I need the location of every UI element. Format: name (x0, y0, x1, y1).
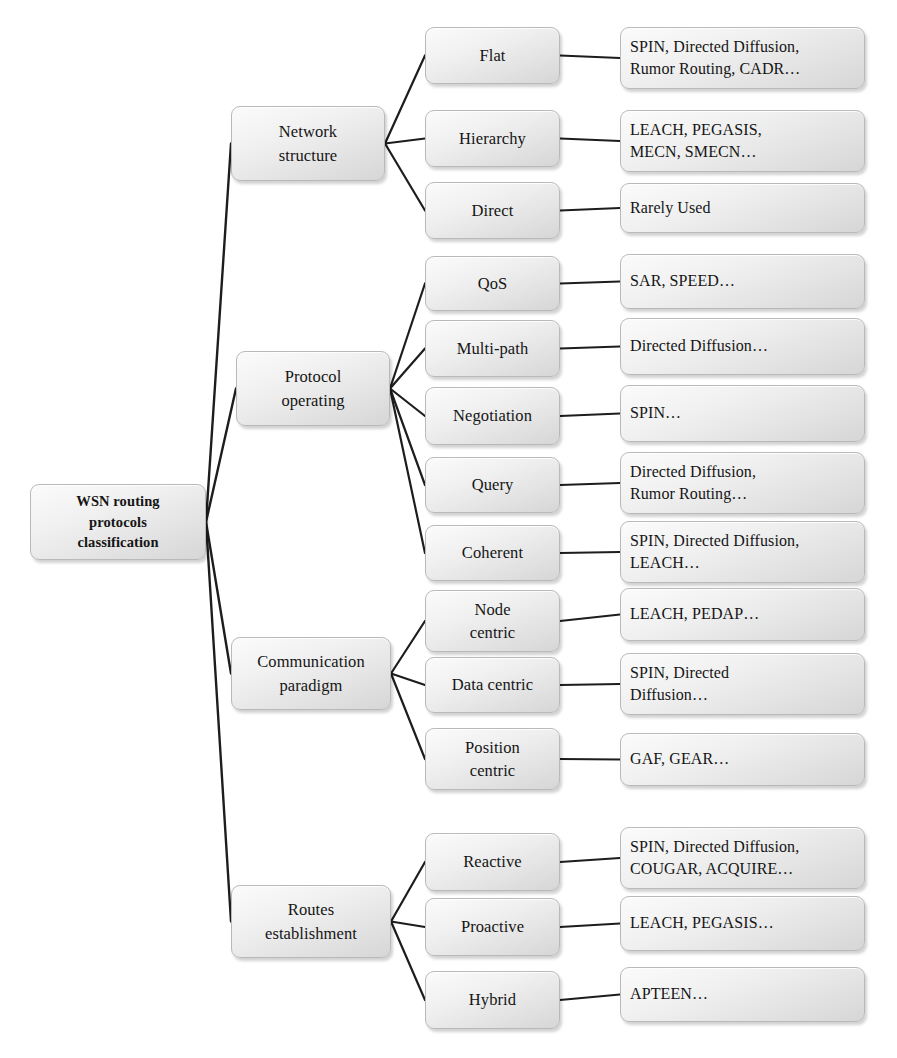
subcategory-node-direct: Direct (425, 182, 560, 239)
edge-protocol-operating-to-negotiation (390, 389, 425, 417)
edge-protocol-operating-to-coherent (390, 389, 425, 554)
edge-multi-path-to-protocols (560, 347, 620, 349)
subcategory-node-direct-label: Direct (426, 199, 559, 222)
subcategory-node-flat: Flat (425, 27, 560, 84)
diagram-canvas: WSN routingprotocolsclassificationNetwor… (0, 0, 897, 1058)
edge-direct-to-protocols (560, 208, 620, 211)
edge-routes-establishment-to-reactive (391, 862, 425, 922)
subcategory-node-coherent-label: Coherent (426, 541, 559, 564)
protocol-list-reactive: SPIN, Directed Diffusion,COUGAR, ACQUIRE… (620, 827, 865, 889)
edge-communication-paradigm-to-position-centric (391, 674, 425, 760)
protocol-list-hybrid-label: APTEEN… (630, 983, 855, 1005)
edge-node-centric-to-protocols (560, 615, 620, 622)
edge-hybrid-to-protocols (560, 995, 620, 1001)
edge-negotiation-to-protocols (560, 414, 620, 417)
subcategory-node-proactive: Proactive (425, 898, 560, 956)
subcategory-node-query-label: Query (426, 473, 559, 496)
subcategory-node-position-centric: Positioncentric (425, 728, 560, 790)
protocol-list-position-centric: GAF, GEAR… (620, 733, 865, 786)
protocol-list-qos: SAR, SPEED… (620, 254, 865, 309)
edge-root-to-communication-paradigm (206, 522, 231, 674)
protocol-list-negotiation: SPIN… (620, 385, 865, 442)
protocol-list-position-centric-label: GAF, GEAR… (630, 748, 855, 770)
protocol-list-reactive-label: SPIN, Directed Diffusion,COUGAR, ACQUIRE… (630, 836, 855, 880)
subcategory-node-node-centric: Nodecentric (425, 590, 560, 652)
protocol-list-direct-label: Rarely Used (630, 197, 855, 219)
protocol-list-hybrid: APTEEN… (620, 967, 865, 1022)
subcategory-node-negotiation: Negotiation (425, 387, 560, 445)
subcategory-node-qos-label: QoS (426, 272, 559, 295)
edge-routes-establishment-to-hybrid (391, 922, 425, 1001)
protocol-list-multi-path: Directed Diffusion… (620, 318, 865, 375)
subcategory-node-negotiation-label: Negotiation (426, 404, 559, 427)
subcategory-node-hybrid-label: Hybrid (426, 988, 559, 1011)
protocol-list-direct: Rarely Used (620, 183, 865, 233)
edge-root-to-routes-establishment (206, 522, 231, 922)
edge-network-structure-to-flat (385, 56, 425, 144)
protocol-list-coherent-label: SPIN, Directed Diffusion,LEACH… (630, 530, 855, 574)
subcategory-node-qos: QoS (425, 256, 560, 311)
protocol-list-flat: SPIN, Directed Diffusion,Rumor Routing, … (620, 27, 865, 89)
edge-query-to-protocols (560, 483, 620, 485)
edge-qos-to-protocols (560, 282, 620, 284)
root-node-label: WSN routingprotocolsclassification (31, 491, 205, 553)
protocol-list-multi-path-label: Directed Diffusion… (630, 335, 855, 357)
edge-routes-establishment-to-proactive (391, 922, 425, 928)
root-node: WSN routingprotocolsclassification (30, 484, 206, 560)
protocol-list-hierarchy: LEACH, PEGASIS,MECN, SMECN… (620, 110, 865, 172)
edge-network-structure-to-hierarchy (385, 139, 425, 144)
subcategory-node-position-centric-label: Positioncentric (426, 736, 559, 782)
category-node-protocol-operating: Protocoloperating (236, 351, 390, 426)
protocol-list-data-centric: SPIN, DirectedDiffusion… (620, 653, 865, 715)
category-node-protocol-operating-label: Protocoloperating (237, 365, 389, 412)
category-node-routes-establishment: Routesestablishment (231, 885, 391, 958)
protocol-list-flat-label: SPIN, Directed Diffusion,Rumor Routing, … (630, 36, 855, 80)
protocol-list-node-centric: LEACH, PEDAP… (620, 588, 865, 641)
edge-root-to-network-structure (206, 144, 231, 523)
subcategory-node-proactive-label: Proactive (426, 915, 559, 938)
edge-hierarchy-to-protocols (560, 139, 620, 142)
edge-communication-paradigm-to-data-centric (391, 674, 425, 686)
subcategory-node-hierarchy-label: Hierarchy (426, 127, 559, 150)
protocol-list-proactive: LEACH, PEGASIS… (620, 896, 865, 951)
subcategory-node-reactive: Reactive (425, 833, 560, 891)
subcategory-node-data-centric-label: Data centric (426, 673, 559, 696)
edge-reactive-to-protocols (560, 858, 620, 862)
edge-coherent-to-protocols (560, 552, 620, 553)
edge-flat-to-protocols (560, 56, 620, 59)
edge-proactive-to-protocols (560, 924, 620, 928)
subcategory-node-coherent: Coherent (425, 525, 560, 581)
category-node-communication-paradigm: Communicationparadigm (231, 637, 391, 710)
protocol-list-proactive-label: LEACH, PEGASIS… (630, 912, 855, 934)
clipped-caption-strip (0, 1046, 897, 1058)
edge-network-structure-to-direct (385, 144, 425, 211)
subcategory-node-multi-path: Multi-path (425, 320, 560, 377)
edge-data-centric-to-protocols (560, 684, 620, 685)
edge-protocol-operating-to-qos (390, 284, 425, 389)
protocol-list-negotiation-label: SPIN… (630, 402, 855, 424)
protocol-list-node-centric-label: LEACH, PEDAP… (630, 603, 855, 625)
protocol-list-query-label: Directed Diffusion,Rumor Routing… (630, 461, 855, 505)
edge-communication-paradigm-to-node-centric (391, 621, 425, 674)
edge-position-centric-to-protocols (560, 759, 620, 760)
category-node-network-structure-label: Networkstructure (232, 120, 384, 167)
protocol-list-query: Directed Diffusion,Rumor Routing… (620, 452, 865, 514)
edge-protocol-operating-to-multi-path (390, 349, 425, 389)
category-node-routes-establishment-label: Routesestablishment (232, 898, 390, 945)
subcategory-node-data-centric: Data centric (425, 657, 560, 713)
subcategory-node-query: Query (425, 457, 560, 513)
protocol-list-hierarchy-label: LEACH, PEGASIS,MECN, SMECN… (630, 119, 855, 163)
subcategory-node-flat-label: Flat (426, 44, 559, 67)
subcategory-node-multi-path-label: Multi-path (426, 337, 559, 360)
subcategory-node-hierarchy: Hierarchy (425, 110, 560, 167)
edge-protocol-operating-to-query (390, 389, 425, 486)
category-node-communication-paradigm-label: Communicationparadigm (232, 650, 390, 697)
subcategory-node-reactive-label: Reactive (426, 850, 559, 873)
subcategory-node-node-centric-label: Nodecentric (426, 598, 559, 644)
subcategory-node-hybrid: Hybrid (425, 971, 560, 1029)
category-node-network-structure: Networkstructure (231, 106, 385, 181)
edge-root-to-protocol-operating (206, 389, 236, 523)
protocol-list-qos-label: SAR, SPEED… (630, 270, 855, 292)
protocol-list-coherent: SPIN, Directed Diffusion,LEACH… (620, 521, 865, 583)
protocol-list-data-centric-label: SPIN, DirectedDiffusion… (630, 662, 855, 706)
